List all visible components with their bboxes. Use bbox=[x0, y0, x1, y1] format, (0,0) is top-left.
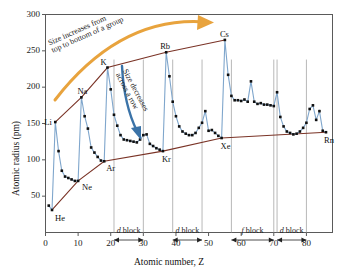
x-tick-label: 20 bbox=[101, 238, 121, 248]
y-tick-label: 150 bbox=[14, 118, 40, 128]
data-point bbox=[259, 102, 262, 105]
data-point bbox=[269, 104, 272, 107]
y-tick-label: 50 bbox=[14, 190, 40, 200]
x-axis-title: Atomic number, Z bbox=[134, 257, 204, 267]
data-point bbox=[168, 75, 171, 78]
data-point bbox=[149, 143, 152, 146]
data-point bbox=[152, 145, 155, 148]
data-point bbox=[155, 147, 158, 150]
element-label-k: K bbox=[100, 57, 106, 67]
data-point bbox=[171, 100, 174, 103]
data-point bbox=[83, 115, 86, 118]
data-point bbox=[246, 100, 249, 103]
data-point bbox=[178, 125, 181, 128]
data-point bbox=[119, 134, 122, 137]
y-tick-label: 250 bbox=[14, 45, 40, 55]
data-point bbox=[282, 125, 285, 128]
element-label-na: Na bbox=[77, 86, 87, 96]
data-point bbox=[201, 121, 204, 124]
data-point bbox=[224, 39, 227, 42]
data-point bbox=[197, 127, 200, 130]
data-point bbox=[315, 119, 318, 122]
data-point bbox=[129, 140, 132, 143]
data-point bbox=[136, 141, 139, 144]
block-label-suffix: block bbox=[121, 226, 141, 235]
data-point bbox=[256, 103, 259, 106]
data-point bbox=[145, 133, 148, 136]
data-point bbox=[74, 180, 77, 183]
data-point bbox=[194, 132, 197, 135]
data-point bbox=[308, 108, 311, 111]
data-point bbox=[266, 103, 269, 106]
data-point bbox=[237, 99, 240, 102]
x-tick-label: 30 bbox=[133, 238, 153, 248]
data-point bbox=[191, 134, 194, 137]
data-point bbox=[312, 104, 315, 107]
y-tick-label: 300 bbox=[14, 9, 40, 19]
data-point bbox=[64, 175, 67, 178]
data-point bbox=[122, 138, 125, 141]
element-label-cs: Cs bbox=[220, 29, 229, 39]
block-label: d block bbox=[168, 226, 206, 235]
data-point bbox=[276, 91, 279, 94]
block-label-suffix: block bbox=[244, 226, 264, 235]
y-tick-label: 100 bbox=[14, 154, 40, 164]
data-point bbox=[250, 80, 253, 83]
group-trend-arrowhead bbox=[197, 15, 214, 30]
data-point bbox=[211, 129, 214, 132]
data-point bbox=[67, 177, 70, 180]
x-tick-label: 80 bbox=[296, 238, 316, 248]
x-tick-label: 40 bbox=[166, 238, 186, 248]
data-point bbox=[184, 132, 187, 135]
data-point bbox=[132, 140, 135, 143]
data-point bbox=[126, 139, 129, 142]
atomic-radius-chart: Atomic radius (pm) Atomic number, Z 5010… bbox=[0, 0, 343, 275]
data-point bbox=[113, 113, 116, 116]
data-point bbox=[279, 116, 282, 119]
x-tick-label: 0 bbox=[36, 238, 56, 248]
data-point bbox=[263, 103, 266, 106]
data-point bbox=[106, 66, 109, 69]
data-point bbox=[57, 150, 60, 153]
data-point bbox=[299, 130, 302, 133]
x-tick-label: 70 bbox=[264, 238, 284, 248]
data-point bbox=[227, 74, 230, 77]
x-axis-title-text: Atomic number, Z bbox=[134, 257, 204, 267]
data-point bbox=[286, 130, 289, 133]
data-point bbox=[175, 115, 178, 118]
data-point bbox=[96, 156, 99, 159]
element-label-ne: Ne bbox=[82, 182, 92, 192]
data-point bbox=[214, 132, 217, 135]
data-point bbox=[93, 151, 96, 154]
data-point bbox=[321, 129, 324, 132]
data-point bbox=[162, 150, 165, 153]
block-label-suffix: block bbox=[179, 226, 199, 235]
y-tick-label: 200 bbox=[14, 81, 40, 91]
data-point bbox=[302, 127, 305, 130]
element-label-he: He bbox=[55, 213, 65, 223]
element-label-ar: Ar bbox=[106, 163, 115, 173]
data-point bbox=[220, 137, 223, 140]
data-point bbox=[90, 146, 93, 149]
data-point bbox=[80, 96, 83, 99]
data-point bbox=[165, 51, 168, 54]
data-point bbox=[305, 121, 308, 124]
element-label-xe: Xe bbox=[221, 141, 231, 151]
data-point bbox=[233, 99, 236, 102]
element-label-rb: Rb bbox=[160, 41, 170, 51]
data-point bbox=[116, 124, 119, 127]
data-point bbox=[87, 127, 90, 130]
data-point bbox=[240, 100, 243, 103]
data-point bbox=[77, 180, 80, 183]
data-point bbox=[51, 209, 54, 212]
data-point bbox=[204, 110, 207, 113]
data-point bbox=[109, 88, 112, 91]
data-point bbox=[273, 105, 276, 108]
data-point bbox=[142, 134, 145, 137]
data-point bbox=[325, 131, 328, 134]
block-label: d block bbox=[110, 226, 148, 235]
block-label: d block bbox=[273, 226, 311, 235]
block-label: f block bbox=[234, 226, 272, 235]
data-point bbox=[100, 159, 103, 162]
element-label-rn: Rn bbox=[324, 135, 334, 145]
